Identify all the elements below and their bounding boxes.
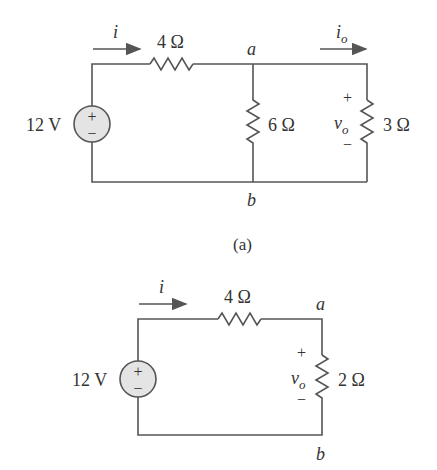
circuit-diagrams: + − 12 V 4 Ω i a 6 Ω 3 Ω io + vo − b (a)…	[0, 0, 437, 470]
vo-label: vo	[291, 368, 306, 392]
node-a-label: a	[316, 294, 325, 314]
vo-minus: −	[343, 136, 352, 153]
current-label: i	[159, 277, 164, 297]
node-b-label: b	[316, 444, 325, 464]
resistor-6-ohm	[247, 64, 259, 182]
node-a-label: a	[247, 39, 256, 59]
source-plus: +	[133, 363, 142, 380]
current-label: i	[113, 22, 118, 42]
wire	[138, 319, 218, 361]
caption-a: (a)	[233, 235, 252, 254]
r-load-label: 3 Ω	[383, 115, 410, 135]
vo-plus: +	[343, 89, 352, 106]
circuit-b	[138, 304, 328, 435]
resistor-3-ohm	[361, 100, 373, 182]
wire	[261, 319, 322, 355]
r-series-label: 4 Ω	[224, 287, 251, 307]
source-minus: −	[87, 125, 96, 142]
source-minus: −	[133, 380, 142, 397]
vo-minus: −	[297, 391, 306, 408]
source-label: 12 V	[72, 370, 107, 390]
r-load-label: 2 Ω	[338, 370, 365, 390]
current-out-label: io	[336, 22, 348, 46]
wire	[193, 64, 367, 100]
resistor-4-ohm	[218, 313, 261, 325]
node-b-label: b	[247, 190, 256, 210]
r-series-label: 4 Ω	[157, 32, 184, 52]
vo-label: vo	[334, 113, 349, 137]
vo-plus: +	[297, 344, 306, 361]
wire	[92, 64, 150, 106]
wire	[92, 142, 367, 182]
circuit-a	[92, 49, 373, 182]
r-shunt-label: 6 Ω	[268, 115, 295, 135]
source-label: 12 V	[26, 115, 61, 135]
resistor-4-ohm	[150, 58, 193, 70]
source-plus: +	[87, 108, 96, 125]
